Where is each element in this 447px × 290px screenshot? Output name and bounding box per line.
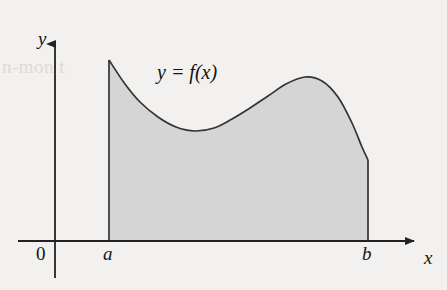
curve-equation-label: y = f(x) xyxy=(157,61,217,84)
right-bound-label-b: b xyxy=(362,243,372,265)
x-axis-label: x xyxy=(424,247,432,269)
plot-canvas xyxy=(0,0,447,290)
area-under-curve-figure: n-mon to v emir y x 0 a b y = f(x) xyxy=(0,0,447,290)
y-axis-label: y xyxy=(38,28,46,50)
left-bound-label-a: a xyxy=(103,243,113,265)
origin-label: 0 xyxy=(36,243,46,265)
